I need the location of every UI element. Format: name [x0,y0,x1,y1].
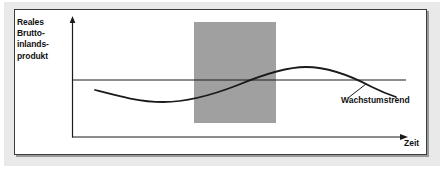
y-axis-label-line-1: Reales [17,17,69,28]
y-axis-label: Reales Brutto- inlands- produkt [17,17,69,62]
x-axis-label: Zeit [404,138,419,148]
y-axis-arrowhead [70,16,76,23]
growth-trend-label: Wachstumstrend [341,95,410,105]
y-axis-label-line-3: inlands- [17,39,69,50]
y-axis-label-line-2: Brutto- [17,28,69,39]
y-axis-label-line-4: produkt [17,51,69,62]
recession-shading [194,22,276,123]
business-cycle-figure: Reales Brutto- inlands- produkt Zeit Wac… [0,0,446,170]
